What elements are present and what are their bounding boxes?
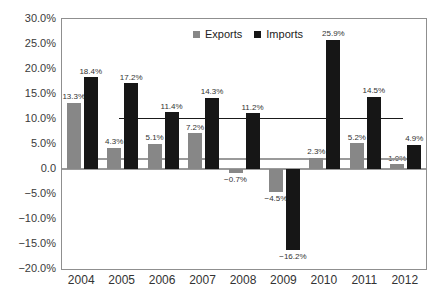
bar-imports-2004 xyxy=(84,77,98,169)
legend-item-exports: Exports xyxy=(193,28,242,40)
y-tick-label: −5.0% xyxy=(4,187,56,199)
y-tick-label: 15.0% xyxy=(4,87,56,99)
bar-exports-2007 xyxy=(188,133,202,169)
bar-value-label-imports-2011: 14.5% xyxy=(356,86,392,95)
y-tick-label: 20.0% xyxy=(4,62,56,74)
bar-imports-2007 xyxy=(205,98,219,170)
bar-exports-2005 xyxy=(107,148,121,170)
y-tick-label: −20.0% xyxy=(4,262,56,274)
y-tick-label: −10.0% xyxy=(4,212,56,224)
bar-exports-2009 xyxy=(269,169,283,192)
legend-item-imports: Imports xyxy=(254,28,303,40)
y-tick-label: 0.0 xyxy=(4,162,56,174)
legend-label-exports: Exports xyxy=(205,28,242,40)
bar-imports-2011 xyxy=(367,97,381,170)
legend-swatch-exports xyxy=(193,31,200,38)
imports-average-line xyxy=(119,118,403,120)
y-tick-label: −15.0% xyxy=(4,237,56,249)
bar-imports-2010 xyxy=(326,40,340,170)
bar-value-label-imports-2005: 17.2% xyxy=(113,73,149,82)
bar-exports-2006 xyxy=(148,144,162,170)
bar-value-label-imports-2012: 4.9% xyxy=(396,134,432,143)
y-tick-label: 25.0% xyxy=(4,37,56,49)
bar-value-label-exports-2008: −0.7% xyxy=(218,175,254,184)
bar-imports-2008 xyxy=(246,113,260,169)
bar-exports-2010 xyxy=(309,158,323,170)
legend-label-imports: Imports xyxy=(266,28,303,40)
y-tick-label: 30.0% xyxy=(4,12,56,24)
bar-value-label-imports-2004: 18.4% xyxy=(73,67,109,76)
bar-value-label-imports-2009: −16.2% xyxy=(275,252,311,261)
bar-value-label-imports-2006: 11.4% xyxy=(154,102,190,111)
legend: ExportsImports xyxy=(193,28,303,40)
bar-exports-2008 xyxy=(229,169,243,173)
bar-imports-2005 xyxy=(124,83,138,169)
bar-imports-2006 xyxy=(165,112,179,169)
bar-imports-2012 xyxy=(407,145,421,170)
y-tick-label: 5.0% xyxy=(4,137,56,149)
y-tick-label: 10.0% xyxy=(4,112,56,124)
x-tick-label: 2012 xyxy=(380,273,430,287)
bar-exports-2004 xyxy=(67,103,81,170)
bar-exports-2011 xyxy=(350,143,364,169)
exports-imports-bar-chart: 13.3%4.3%5.1%7.2%−0.7%−4.5%2.3%5.2%1.0%1… xyxy=(0,0,443,298)
bar-exports-2012 xyxy=(390,164,404,169)
legend-swatch-imports xyxy=(254,31,261,38)
bar-value-label-imports-2008: 11.2% xyxy=(235,103,271,112)
bar-imports-2009 xyxy=(286,169,300,250)
bar-value-label-imports-2007: 14.3% xyxy=(194,87,230,96)
plot-area: 13.3%4.3%5.1%7.2%−0.7%−4.5%2.3%5.2%1.0%1… xyxy=(61,18,427,270)
bar-value-label-imports-2010: 25.9% xyxy=(315,29,351,38)
